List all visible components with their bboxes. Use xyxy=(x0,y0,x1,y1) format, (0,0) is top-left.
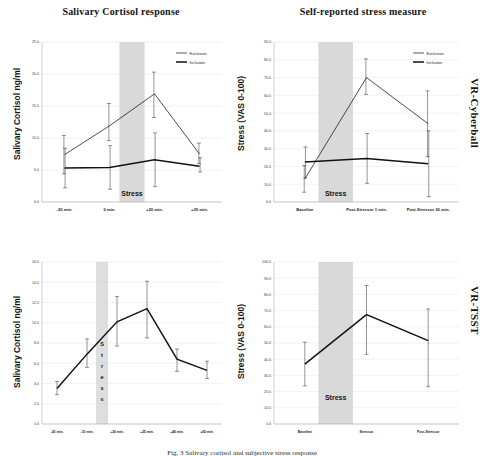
y-tick-label: 40.0 xyxy=(264,358,271,362)
row-label-tsst: VR-TSST xyxy=(469,286,481,335)
series-line-cortisol xyxy=(57,309,207,389)
x-tick-label: Post-Stressor xyxy=(417,430,440,434)
x-tick-label: +60 min. xyxy=(200,430,214,434)
x-tick-label: +35 min. xyxy=(191,207,208,212)
plot-area: 0.010.020.030.040.050.060.070.080.090.01… xyxy=(242,228,484,456)
y-tick-label: 4.0 xyxy=(34,382,39,386)
stress-band-letter: t xyxy=(101,352,103,358)
y-tick-label: 0.0 xyxy=(266,422,271,426)
panel-tsst-stress: Stress (VAS 0-100) 0.010.020.030.040.050… xyxy=(242,228,484,456)
y-tick-label: 6.0 xyxy=(34,362,39,366)
y-tick-label: 12.0 xyxy=(32,301,39,305)
stress-band-label: Stress xyxy=(325,394,347,401)
stress-band-letter: s xyxy=(100,396,103,402)
x-tick-label: Post-Stressor 30 min. xyxy=(407,207,450,212)
y-tick-label: 50.0 xyxy=(264,341,271,345)
y-tick-label: 10.0 xyxy=(32,136,39,140)
y-tick-label: 70.0 xyxy=(264,309,271,313)
legend-label: Inclusion xyxy=(427,60,443,65)
panel-cyberball-stress: Self-reported stress measure Stress (VAS… xyxy=(242,0,484,228)
stress-band-label: Stress xyxy=(325,190,347,197)
y-tick-label: 100.0 xyxy=(262,260,271,264)
figure-caption: Fig. 3 Salivary cortisol and subjective … xyxy=(0,449,484,456)
y-tick-label: 20.0 xyxy=(32,72,39,76)
stress-band-letter: S xyxy=(100,341,104,347)
panel-tsst-cortisol: Salivary Cortisol ng/ml 0.02.04.06.08.01… xyxy=(0,228,242,456)
y-tick-label: 10.0 xyxy=(32,321,39,325)
x-tick-label: -20 min. xyxy=(57,207,73,212)
y-tick-label: 10.0 xyxy=(264,183,271,187)
x-tick-label: +25 min. xyxy=(140,430,154,434)
y-tick-label: 0.0 xyxy=(34,200,39,204)
legend-label: Exclusion xyxy=(190,51,207,56)
y-tick-label: 60.0 xyxy=(264,325,271,329)
stress-band-letter: e xyxy=(100,374,103,380)
plot-area: 0.010.020.030.040.050.060.070.080.090.0B… xyxy=(242,0,484,228)
stress-band-letter: s xyxy=(100,385,103,391)
x-tick-label: Post-Stressor 1 min. xyxy=(346,207,387,212)
y-tick-label: 20.0 xyxy=(264,165,271,169)
panel-cyberball-cortisol: Salivary Cortisol response Salivary Cort… xyxy=(0,0,242,228)
y-tick-label: 20.0 xyxy=(264,390,271,394)
x-tick-label: -20 min. xyxy=(51,430,64,434)
y-tick-label: 16.0 xyxy=(32,260,39,264)
x-tick-label: Stressor xyxy=(360,430,374,434)
y-tick-label: 5.0 xyxy=(34,168,39,172)
y-tick-label: 0.0 xyxy=(34,422,39,426)
y-tick-label: 90.0 xyxy=(264,40,271,44)
stress-band-label: Stress xyxy=(121,190,143,197)
x-tick-label: +40 min. xyxy=(170,430,184,434)
y-tick-label: 50.0 xyxy=(264,112,271,116)
y-tick-label: 10.0 xyxy=(264,406,271,410)
y-tick-label: 8.0 xyxy=(34,341,39,345)
legend-label: Exclusion xyxy=(427,51,444,56)
y-tick-label: 15.0 xyxy=(32,104,39,108)
y-tick-label: 40.0 xyxy=(264,129,271,133)
row-label-cyberball: VR-Cyberball xyxy=(469,78,481,148)
x-tick-label: Baseline xyxy=(298,430,312,434)
x-tick-label: Baseline xyxy=(296,207,314,212)
y-tick-label: 25.0 xyxy=(32,40,39,44)
figure-container: Salivary Cortisol response Salivary Cort… xyxy=(0,0,484,456)
stress-band xyxy=(119,42,144,202)
y-tick-label: 14.0 xyxy=(32,281,39,285)
y-tick-label: 80.0 xyxy=(264,58,271,62)
plot-area: 0.02.04.06.08.010.012.014.016.0-20 min.-… xyxy=(0,228,242,456)
y-tick-label: 80.0 xyxy=(264,293,271,297)
stress-band xyxy=(318,42,353,202)
x-tick-label: +20 min. xyxy=(146,207,163,212)
x-tick-label: 0 min. xyxy=(103,207,115,212)
y-tick-label: 60.0 xyxy=(264,94,271,98)
y-tick-label: 2.0 xyxy=(34,402,39,406)
y-tick-label: 90.0 xyxy=(264,277,271,281)
plot-area: 0.05.010.015.020.025.0-20 min.0 min.+20 … xyxy=(0,0,242,228)
y-tick-label: 30.0 xyxy=(264,374,271,378)
x-tick-label: -10 min. xyxy=(81,430,94,434)
y-tick-label: 30.0 xyxy=(264,147,271,151)
y-tick-label: 70.0 xyxy=(264,76,271,80)
legend-label: Inclusion xyxy=(190,60,206,65)
x-tick-label: +20 min. xyxy=(110,430,124,434)
y-tick-label: 0.0 xyxy=(266,200,271,204)
